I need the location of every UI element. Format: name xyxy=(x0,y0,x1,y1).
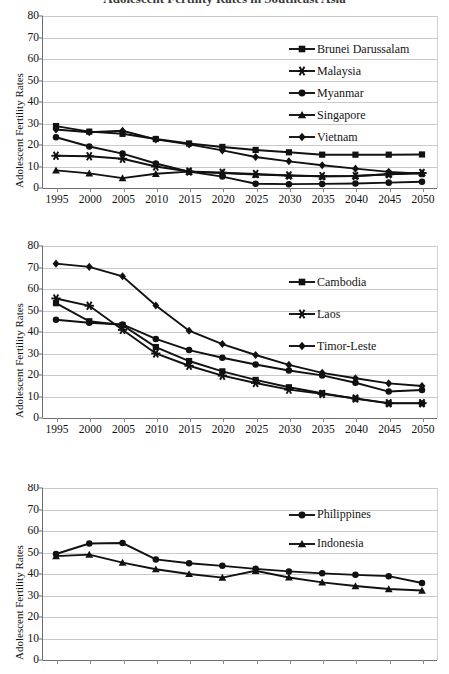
gridline-0 xyxy=(43,188,437,189)
x-tick-label-2050: 2050 xyxy=(412,194,435,206)
data-point-diamond xyxy=(298,133,305,142)
y-tick-label-70: 70 xyxy=(28,32,40,44)
data-point-circle xyxy=(299,90,306,97)
legend-item-laos[interactable]: Laos xyxy=(288,298,376,330)
chart2-y-axis-label: Adolescent Fertility Rates xyxy=(0,242,17,418)
legend-item-indonesia[interactable]: Indonesia xyxy=(288,529,371,558)
x-tick-mark-2025 xyxy=(257,188,258,192)
figure-title-clipped: Adolescent Fertility Rates in Southeast … xyxy=(0,0,449,12)
legend-marker-diamond-icon xyxy=(288,130,316,144)
data-point-square xyxy=(319,152,325,158)
data-point-circle xyxy=(252,180,259,187)
data-point-circle xyxy=(86,540,93,547)
x-tick-mark-2045 xyxy=(390,660,391,664)
data-point-circle xyxy=(319,181,326,188)
legend-marker-asterisk-icon xyxy=(288,64,316,78)
legend-marker-circle-icon xyxy=(288,86,316,100)
series-line-singapore xyxy=(56,170,422,178)
chart2-plot-area: 0102030405060708019952000200520102015202… xyxy=(42,246,436,418)
chart3-legend: PhilippinesIndonesia xyxy=(288,500,371,558)
y-tick-label-0: 0 xyxy=(33,412,39,424)
data-point-square xyxy=(299,46,306,53)
x-tick-mark-2050 xyxy=(423,418,424,422)
data-point-circle xyxy=(119,150,126,157)
chart1-y-axis-label: Adolescent Fertility Rates xyxy=(0,12,17,188)
legend-marker-diamond-icon xyxy=(288,339,316,353)
legend-item-cambodia[interactable]: Cambodia xyxy=(288,266,376,298)
data-point-diamond xyxy=(219,340,226,348)
legend-label-text: Singapore xyxy=(316,108,366,123)
data-point-circle xyxy=(119,321,126,328)
data-point-circle xyxy=(86,143,93,150)
data-point-diamond xyxy=(385,379,392,387)
x-tick-label-2005: 2005 xyxy=(112,424,135,436)
x-tick-mark-2010 xyxy=(157,660,158,664)
x-tick-label-2005: 2005 xyxy=(112,194,135,206)
data-point-circle xyxy=(53,134,60,141)
x-tick-label-2030: 2030 xyxy=(278,424,301,436)
x-tick-mark-2015 xyxy=(190,418,191,422)
y-tick-label-80: 80 xyxy=(28,240,40,252)
x-tick-label-2000: 2000 xyxy=(79,194,102,206)
data-point-asterisk xyxy=(297,310,307,319)
x-tick-mark-2015 xyxy=(190,188,191,192)
x-tick-label-2015: 2015 xyxy=(179,194,202,206)
data-point-circle xyxy=(186,347,193,354)
legend-label-text: Myanmar xyxy=(316,86,364,101)
legend-item-singapore[interactable]: Singapore xyxy=(288,104,409,126)
x-tick-label-2000: 2000 xyxy=(79,424,102,436)
x-tick-label-2015: 2015 xyxy=(179,424,202,436)
x-tick-label-2020: 2020 xyxy=(212,424,235,436)
x-tick-mark-2030 xyxy=(290,188,291,192)
data-point-circle xyxy=(186,560,193,567)
legend-item-myanmar[interactable]: Myanmar xyxy=(288,82,409,104)
data-point-circle xyxy=(119,540,126,547)
x-tick-mark-2005 xyxy=(124,418,125,422)
series-line-indonesia xyxy=(56,555,422,591)
data-point-diamond xyxy=(298,342,305,351)
data-point-circle xyxy=(419,179,426,186)
legend-item-philippines[interactable]: Philippines xyxy=(288,500,371,529)
x-tick-mark-2010 xyxy=(157,418,158,422)
legend-label-text: Philippines xyxy=(316,507,371,522)
data-point-diamond xyxy=(252,351,259,359)
legend-item-malaysia[interactable]: Malaysia xyxy=(288,60,409,82)
legend-marker-circle-icon xyxy=(288,508,316,522)
gridline-0 xyxy=(43,660,437,661)
figure-title-text: Adolescent Fertility Rates in Southeast … xyxy=(0,0,449,7)
data-point-diamond xyxy=(53,260,60,268)
legend-marker-triangle-icon xyxy=(288,108,316,122)
data-point-circle xyxy=(352,572,359,579)
legend-item-timor-leste[interactable]: Timor-Leste xyxy=(288,330,376,362)
y-tick-label-80: 80 xyxy=(28,484,40,494)
y-tick-label-30: 30 xyxy=(28,590,40,602)
x-tick-mark-2035 xyxy=(323,188,324,192)
y-tick-label-40: 40 xyxy=(28,568,40,580)
y-tick-label-0: 0 xyxy=(33,182,39,194)
data-point-circle xyxy=(319,372,326,379)
data-point-circle xyxy=(352,379,359,386)
legend-label-text: Laos xyxy=(316,307,340,322)
y-tick-label-30: 30 xyxy=(28,348,40,360)
x-tick-mark-2015 xyxy=(190,660,191,664)
y-tick-label-20: 20 xyxy=(28,139,40,151)
data-point-asterisk xyxy=(85,152,94,160)
legend-item-vietnam[interactable]: Vietnam xyxy=(288,126,409,148)
data-point-square xyxy=(253,147,259,153)
x-tick-mark-2010 xyxy=(157,188,158,192)
x-tick-mark-2000 xyxy=(90,660,91,664)
x-tick-mark-2045 xyxy=(390,188,391,192)
legend-item-brunei-darussalam[interactable]: Brunei Darussalam xyxy=(288,38,409,60)
x-tick-label-1995: 1995 xyxy=(46,194,69,206)
x-tick-label-2030: 2030 xyxy=(278,194,301,206)
data-point-circle xyxy=(86,320,93,327)
x-tick-mark-1995 xyxy=(57,188,58,192)
chart-panel-3: Adolescent Fertility Rates 0102030405060… xyxy=(0,484,449,674)
x-tick-mark-2050 xyxy=(423,660,424,664)
y-tick-label-40: 40 xyxy=(28,96,40,108)
data-point-circle xyxy=(219,355,226,362)
x-tick-mark-2025 xyxy=(257,418,258,422)
data-point-diamond xyxy=(352,165,359,173)
chart3-y-axis-label: Adolescent Fertility Rates xyxy=(0,484,17,660)
chart3-plot-area: 01020304050607080 xyxy=(42,488,436,660)
